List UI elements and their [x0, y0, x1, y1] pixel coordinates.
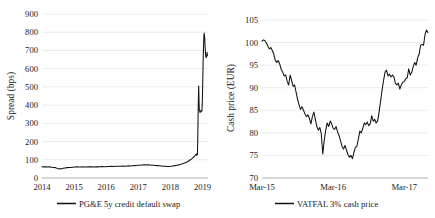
vattenfall-chart-svg: 707580859095100105 Mar-15Mar-16Mar-17 Ca… — [218, 0, 435, 218]
x-tick-label: 2016 — [98, 182, 116, 192]
x-tick-label: 2018 — [162, 182, 179, 192]
x-tick-label: Mar-16 — [320, 182, 346, 192]
y-tick-label: 95 — [249, 60, 258, 70]
x-tick-label: 2017 — [130, 182, 148, 192]
y-tick-label: 600 — [25, 64, 38, 74]
vattenfall-xaxis-ticklabels: Mar-15Mar-16Mar-17 — [249, 182, 418, 192]
y-tick-label: 400 — [25, 100, 38, 110]
y-tick-label: 90 — [249, 83, 258, 93]
x-tick-label: 2014 — [33, 182, 51, 192]
y-tick-label: 300 — [25, 118, 38, 128]
y-tick-label: 80 — [249, 128, 258, 138]
y-tick-label: 100 — [25, 155, 38, 165]
vattenfall-yaxis-title: Cash price (EUR) — [226, 64, 237, 132]
pge-cds-yaxis-title: Spread (bps) — [6, 72, 17, 120]
pge-cds-series-line — [42, 33, 207, 169]
chart-panel-pge-cds: 0100200300400500600700800900 20142015201… — [0, 0, 217, 218]
vattenfall-legend-label: VATFAL 3% cash price — [297, 199, 378, 209]
y-tick-label: 800 — [25, 27, 38, 37]
vattenfall-yaxis-ticklabels: 707580859095100105 — [245, 15, 258, 183]
x-tick-label: 2015 — [66, 182, 83, 192]
pge-cds-gridlines — [42, 14, 208, 178]
y-tick-label: 85 — [249, 105, 258, 115]
pge-cds-xaxis-ticklabels: 201420152016201720182019 — [33, 182, 211, 192]
y-tick-label: 200 — [25, 137, 38, 147]
y-tick-label: 75 — [249, 150, 258, 160]
y-tick-label: 105 — [245, 15, 258, 25]
pge-cds-yaxis-ticklabels: 0100200300400500600700800900 — [25, 9, 38, 183]
vattenfall-gridlines — [262, 20, 428, 178]
y-tick-label: 500 — [25, 82, 38, 92]
pge-cds-legend-label: PG&E 5y credit default swap — [79, 199, 180, 209]
pge-cds-chart-svg: 0100200300400500600700800900 20142015201… — [0, 0, 217, 218]
y-tick-label: 900 — [25, 9, 38, 19]
vattenfall-series-line — [262, 30, 428, 159]
chart-panel-vattenfall-cash-price: 707580859095100105 Mar-15Mar-16Mar-17 Ca… — [218, 0, 435, 218]
figure-two-panel-chart: 0100200300400500600700800900 20142015201… — [0, 0, 435, 218]
x-tick-label: 2019 — [194, 182, 211, 192]
y-tick-label: 100 — [245, 38, 258, 48]
x-tick-label: Mar-15 — [249, 182, 275, 192]
y-tick-label: 700 — [25, 45, 38, 55]
x-tick-label: Mar-17 — [391, 182, 417, 192]
